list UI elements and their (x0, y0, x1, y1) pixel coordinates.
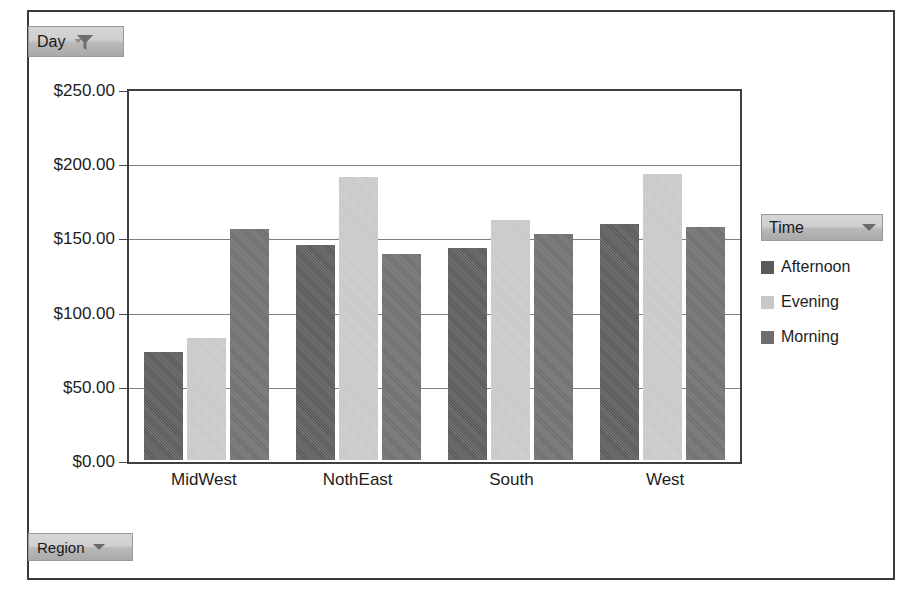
pivot-chart-screen: Day Region $0.00$50.00$100.00$150.00$200… (0, 0, 922, 596)
x-axis-tick-label: South (435, 470, 589, 490)
bar[interactable] (339, 177, 378, 460)
legend-items: AfternoonEveningMorning (761, 258, 883, 346)
bar-groups (131, 93, 738, 460)
y-axis-tick-label: $100.00 (54, 304, 115, 324)
legend-item-label: Morning (781, 328, 839, 346)
legend-item[interactable]: Evening (761, 293, 883, 311)
region-filter-label: Region (37, 539, 85, 556)
y-axis-tick-label: $200.00 (54, 155, 115, 175)
y-axis-tick-label: $50.00 (63, 378, 115, 398)
bar[interactable] (187, 338, 226, 460)
bar-group (131, 93, 283, 460)
bar-group (435, 93, 587, 460)
y-axis-tick-mark (119, 165, 127, 166)
y-axis-tick-label: $150.00 (54, 229, 115, 249)
filter-funnel-icon (73, 32, 95, 52)
bar[interactable] (144, 352, 183, 460)
legend-title: Time (769, 219, 804, 237)
bar[interactable] (686, 227, 725, 460)
legend-item-label: Evening (781, 293, 839, 311)
x-axis-tick-label: NothEast (281, 470, 435, 490)
bar[interactable] (600, 224, 639, 460)
x-axis-tick-label: MidWest (127, 470, 281, 490)
y-axis-tick-mark (119, 462, 127, 463)
legend-header-time[interactable]: Time (761, 214, 883, 241)
legend-item-label: Afternoon (781, 258, 850, 276)
bar[interactable] (491, 220, 530, 460)
bar[interactable] (382, 254, 421, 460)
day-filter-label: Day (37, 33, 65, 51)
legend-swatch (761, 331, 774, 344)
legend-item[interactable]: Morning (761, 328, 883, 346)
bar[interactable] (296, 245, 335, 460)
y-axis-tick-label: $250.00 (54, 81, 115, 101)
bar[interactable] (448, 248, 487, 460)
bar[interactable] (230, 229, 269, 461)
legend: Time AfternoonEveningMorning (761, 214, 883, 346)
legend-swatch (761, 261, 774, 274)
plot-area (127, 89, 742, 464)
y-axis-tick-mark (119, 314, 127, 315)
legend-item[interactable]: Afternoon (761, 258, 883, 276)
chevron-down-icon (862, 224, 876, 231)
bar-group (283, 93, 435, 460)
bar[interactable] (643, 174, 682, 460)
bar-chart: $0.00$50.00$100.00$150.00$200.00$250.00 (127, 89, 742, 464)
y-axis-tick-mark (119, 91, 127, 92)
bar-group (586, 93, 738, 460)
y-axis-tick-label: $0.00 (72, 452, 115, 472)
day-filter-button[interactable]: Day (28, 26, 124, 57)
chevron-down-icon (93, 544, 105, 550)
bar[interactable] (534, 234, 573, 460)
x-axis-labels: MidWestNothEastSouthWest (127, 470, 742, 490)
y-axis-tick-mark (119, 239, 127, 240)
region-filter-button[interactable]: Region (28, 533, 133, 561)
legend-swatch (761, 296, 774, 309)
y-axis-tick-mark (119, 388, 127, 389)
x-axis-tick-label: West (588, 470, 742, 490)
